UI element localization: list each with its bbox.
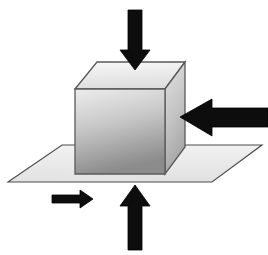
diagram-canvas: Cube under compressive loading on a plan…: [0, 0, 268, 255]
arrow-left-side-load: [180, 99, 268, 136]
arrow-up-reaction: [120, 185, 150, 250]
arrow-right-friction: [52, 190, 93, 208]
cube-front-face: [75, 89, 165, 174]
arrow-down-top-load: [120, 10, 150, 70]
force-diagram: [0, 0, 268, 255]
